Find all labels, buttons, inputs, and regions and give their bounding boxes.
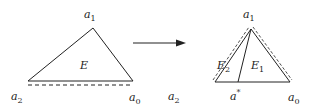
label-E: E (80, 60, 88, 71)
label-a0-left: a0 (129, 92, 141, 106)
split-edge (238, 29, 251, 82)
label-a1-right: a1 (243, 9, 255, 23)
diagram-canvas: a1 E a2 a0 a1 E2 E1 a2 a* a0 (0, 0, 309, 107)
label-a1-left: a1 (84, 9, 96, 23)
label-E2: E2 (217, 60, 230, 74)
label-a2-left: a2 (11, 91, 23, 105)
left-triangle (28, 28, 133, 81)
label-E1: E1 (251, 60, 264, 74)
label-astar: a* (230, 89, 241, 102)
arrow-head-icon (176, 40, 186, 47)
label-a0-right: a0 (288, 92, 300, 106)
label-a2-right: a2 (168, 91, 180, 105)
diagram-svg (0, 0, 309, 107)
